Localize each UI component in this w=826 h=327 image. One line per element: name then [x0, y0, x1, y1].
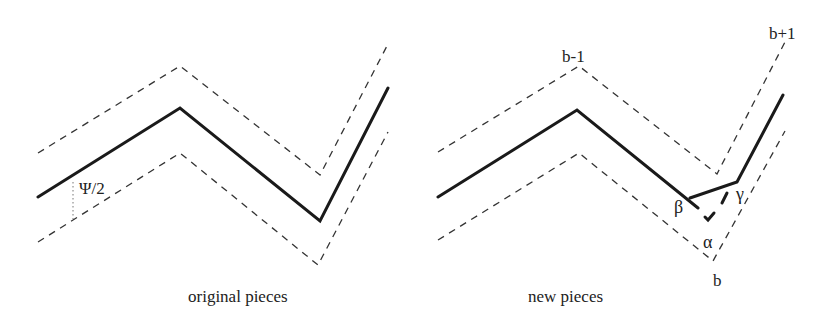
new-path-solid-left [438, 110, 698, 208]
lower-boundary-dashed [438, 131, 785, 261]
diagram-canvas: Ψ/2 original pieces b-1 b+1 b α β γ new … [0, 0, 826, 327]
panel-original: Ψ/2 original pieces [38, 44, 388, 306]
label-b-minus-1: b-1 [562, 47, 585, 66]
original-path-solid [38, 88, 388, 221]
alpha-check-mark [705, 213, 714, 220]
new-path-solid-right [690, 95, 783, 198]
caption-original-pieces: original pieces [188, 287, 288, 306]
label-b-plus-1: b+1 [769, 24, 796, 43]
label-gamma: γ [735, 184, 744, 204]
label-beta: β [674, 197, 683, 217]
label-b: b [713, 271, 722, 290]
label-alpha: α [703, 232, 713, 252]
upper-boundary-dashed [38, 44, 388, 175]
lower-boundary-dashed [38, 132, 388, 265]
psi-half-label: Ψ/2 [79, 179, 105, 198]
gamma-tick-mark [722, 193, 727, 203]
upper-boundary-dashed [438, 42, 785, 174]
caption-new-pieces: new pieces [528, 287, 603, 306]
panel-new: b-1 b+1 b α β γ new pieces [438, 24, 796, 306]
